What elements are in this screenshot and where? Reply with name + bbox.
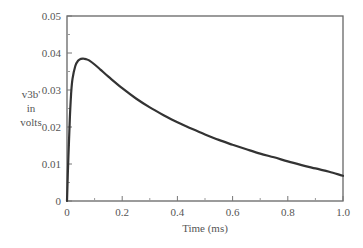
x-tick-label: 0.4 [171,206,185,218]
y-tick-label: 0 [56,195,62,207]
y-axis-label-line: in [27,102,36,114]
x-axis-label: Time (ms) [182,222,228,235]
plot-border [67,16,343,201]
x-tick-label: 0 [64,206,70,218]
series-line-v3b [67,59,343,201]
y-axis-label-line: volts [20,116,41,128]
plot-frame [67,16,343,201]
y-tick-label: 0.02 [42,121,61,133]
y-axis-label-line: v3b' [22,88,41,100]
x-tick-label: 0.8 [281,206,295,218]
axis-ticks [67,16,343,201]
y-tick-label: 0.03 [42,84,62,96]
x-tick-label: 0.6 [226,206,240,218]
y-tick-label: 0.05 [42,10,62,22]
x-tick-label: 1.0 [336,206,350,218]
y-tick-label: 0.04 [42,47,62,59]
x-tick-label: 0.2 [115,206,129,218]
y-axis-label: v3b'involts [20,88,41,128]
y-tick-label: 0.01 [42,158,61,170]
line-chart: 00.20.40.60.81.000.010.020.030.040.05 Ti… [0,0,363,248]
tick-labels: 00.20.40.60.81.000.010.020.030.040.05 [42,10,351,218]
